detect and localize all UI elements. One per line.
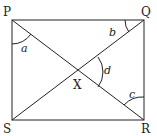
geometry-diagram: P Q S R X a b c d	[0, 0, 157, 136]
vertex-label-r: R	[141, 122, 151, 136]
angle-label-b: b	[109, 26, 116, 39]
vertex-label-s: S	[3, 122, 11, 136]
angle-arc-d	[98, 57, 103, 87]
vertex-label-p: P	[3, 5, 11, 19]
angle-arc-b	[125, 20, 129, 32]
angle-label-d: d	[104, 64, 111, 77]
angle-label-c: c	[129, 88, 135, 101]
vertex-label-q: Q	[141, 5, 151, 19]
intersection-label-x: X	[73, 78, 82, 92]
angle-label-a: a	[21, 42, 28, 55]
